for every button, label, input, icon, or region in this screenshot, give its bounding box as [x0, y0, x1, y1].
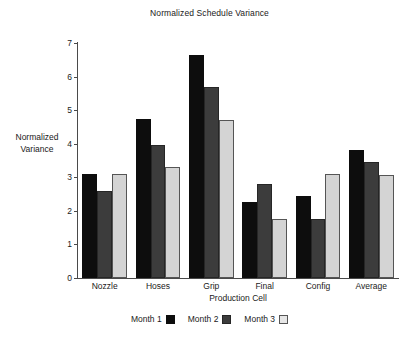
y-axis-tick-label: 3	[67, 172, 72, 182]
plot-area: 01234567	[78, 43, 398, 278]
y-axis-tick-label: 0	[67, 273, 72, 283]
y-axis-tick-label: 4	[67, 139, 72, 149]
bar	[97, 191, 112, 278]
bar	[136, 119, 151, 278]
legend-item[interactable]: Month 1	[131, 314, 175, 324]
bar-group-bars	[296, 43, 341, 278]
bar-group	[238, 43, 291, 278]
bar	[272, 219, 287, 278]
bar	[189, 55, 204, 278]
legend-item-label: Month 2	[188, 314, 219, 324]
bar-group	[185, 43, 238, 278]
bar	[379, 175, 394, 278]
bar	[219, 120, 234, 278]
bar-group-bars	[349, 43, 394, 278]
bar-groups	[78, 43, 398, 278]
bar	[112, 174, 127, 278]
y-axis-tick-label: 2	[67, 206, 72, 216]
x-axis-line	[77, 278, 399, 279]
chart-legend: Month 1Month 2Month 3	[0, 314, 419, 324]
bar-group-bars	[242, 43, 287, 278]
legend-item[interactable]: Month 3	[244, 314, 288, 324]
bar	[364, 162, 379, 278]
y-axis-tick-label: 6	[67, 72, 72, 82]
bar	[242, 202, 257, 278]
bar	[165, 167, 180, 278]
bar-group	[345, 43, 398, 278]
bar	[204, 87, 219, 278]
legend-item[interactable]: Month 2	[188, 314, 232, 324]
legend-item-label: Month 1	[131, 314, 162, 324]
y-axis-label-line1: Normalized	[4, 131, 70, 143]
legend-swatch	[166, 315, 175, 324]
bar	[349, 150, 364, 278]
bar	[82, 174, 97, 278]
legend-item-label: Month 3	[244, 314, 275, 324]
chart-title: Normalized Schedule Variance	[0, 8, 419, 18]
x-axis-label: Production Cell	[78, 293, 398, 303]
bar	[311, 219, 326, 278]
y-axis-tick-label: 5	[67, 105, 72, 115]
y-axis-tick-mark	[74, 278, 78, 279]
y-axis-tick-label: 7	[67, 38, 72, 48]
y-axis-label: Normalized Variance	[4, 131, 70, 155]
bar-group	[78, 43, 131, 278]
bar-group-bars	[136, 43, 181, 278]
bar	[257, 184, 272, 278]
bar-group-bars	[189, 43, 234, 278]
bar-group-bars	[82, 43, 127, 278]
bar	[151, 145, 166, 278]
legend-swatch	[222, 315, 231, 324]
chart-container: Normalized Schedule Variance Normalized …	[0, 0, 419, 344]
bar-group	[291, 43, 344, 278]
legend-swatch	[279, 315, 288, 324]
y-axis-label-line2: Variance	[4, 143, 70, 155]
bar	[325, 174, 340, 278]
bar	[296, 196, 311, 278]
y-axis-tick-label: 1	[67, 239, 72, 249]
bar-group	[131, 43, 184, 278]
